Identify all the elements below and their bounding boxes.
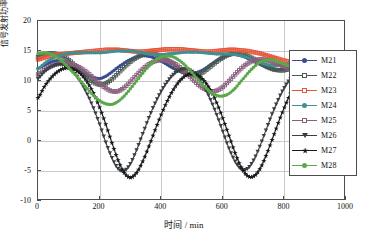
y-axis-tick xyxy=(37,140,41,141)
y-axis-tick xyxy=(37,200,41,201)
legend-swatch-icon xyxy=(291,160,318,171)
y-axis-label: 信号发射功率/dBW xyxy=(0,0,9,68)
x-axis-label: 时间 / min xyxy=(0,218,368,231)
y-axis-tick xyxy=(37,170,41,171)
x-axis-tick-label: 200 xyxy=(93,202,105,211)
legend-label: M22 xyxy=(318,71,337,80)
y-axis-tick-label: 0 xyxy=(0,136,31,145)
legend-marker-icon xyxy=(302,163,307,168)
legend: M21M22M23M24M25M26★M27M28 xyxy=(289,50,357,176)
x-axis-tick-label: 600 xyxy=(216,202,228,211)
y-axis-tick-label: -5 xyxy=(0,166,31,175)
x-axis-tick xyxy=(222,196,223,200)
legend-item-m23[interactable]: M23 xyxy=(291,83,354,98)
legend-item-m21[interactable]: M21 xyxy=(291,53,354,68)
legend-swatch-icon: ★ xyxy=(291,145,318,156)
legend-label: M23 xyxy=(318,86,337,95)
legend-marker-icon xyxy=(302,133,308,138)
x-axis-tick-label: 1000 xyxy=(337,202,353,211)
y-axis-tick xyxy=(37,50,41,51)
legend-swatch-icon xyxy=(291,55,318,66)
legend-marker-icon: ★ xyxy=(302,148,308,154)
y-axis-tick xyxy=(37,110,41,111)
chart-figure: 02004006008001000-10-505101520 时间 / min … xyxy=(0,0,368,251)
legend-marker-icon xyxy=(302,103,307,108)
legend-label: M21 xyxy=(318,56,337,65)
y-axis-tick-label: -10 xyxy=(0,196,31,205)
legend-item-m28[interactable]: M28 xyxy=(291,158,354,173)
legend-swatch-icon xyxy=(291,85,318,96)
x-axis-tick xyxy=(160,196,161,200)
legend-item-m26[interactable]: M26 xyxy=(291,128,354,143)
x-axis-tick xyxy=(99,196,100,200)
x-axis-tick xyxy=(283,196,284,200)
legend-item-m25[interactable]: M25 xyxy=(291,113,354,128)
x-axis-tick-label: 0 xyxy=(35,202,39,211)
y-axis-tick xyxy=(37,80,41,81)
legend-label: M25 xyxy=(318,116,337,125)
legend-swatch-icon xyxy=(291,130,318,141)
x-axis-tick-label: 800 xyxy=(277,202,289,211)
legend-marker-icon xyxy=(302,118,307,123)
y-axis-tick-label: 10 xyxy=(0,76,31,85)
legend-item-m24[interactable]: M24 xyxy=(291,98,354,113)
x-axis-tick xyxy=(345,196,346,200)
legend-label: M26 xyxy=(318,131,337,140)
legend-marker-icon xyxy=(302,58,307,63)
legend-swatch-icon xyxy=(291,100,318,111)
y-axis-tick-label: 5 xyxy=(0,106,31,115)
legend-swatch-icon xyxy=(291,115,318,126)
legend-marker-icon xyxy=(302,88,307,93)
legend-label: M24 xyxy=(318,101,337,110)
legend-item-m22[interactable]: M22 xyxy=(291,68,354,83)
x-axis-tick-label: 400 xyxy=(154,202,166,211)
legend-marker-icon xyxy=(302,73,307,78)
legend-label: M27 xyxy=(318,146,337,155)
legend-swatch-icon xyxy=(291,70,318,81)
legend-item-m27[interactable]: ★M27 xyxy=(291,143,354,158)
y-axis-tick xyxy=(37,20,41,21)
legend-label: M28 xyxy=(318,161,337,170)
